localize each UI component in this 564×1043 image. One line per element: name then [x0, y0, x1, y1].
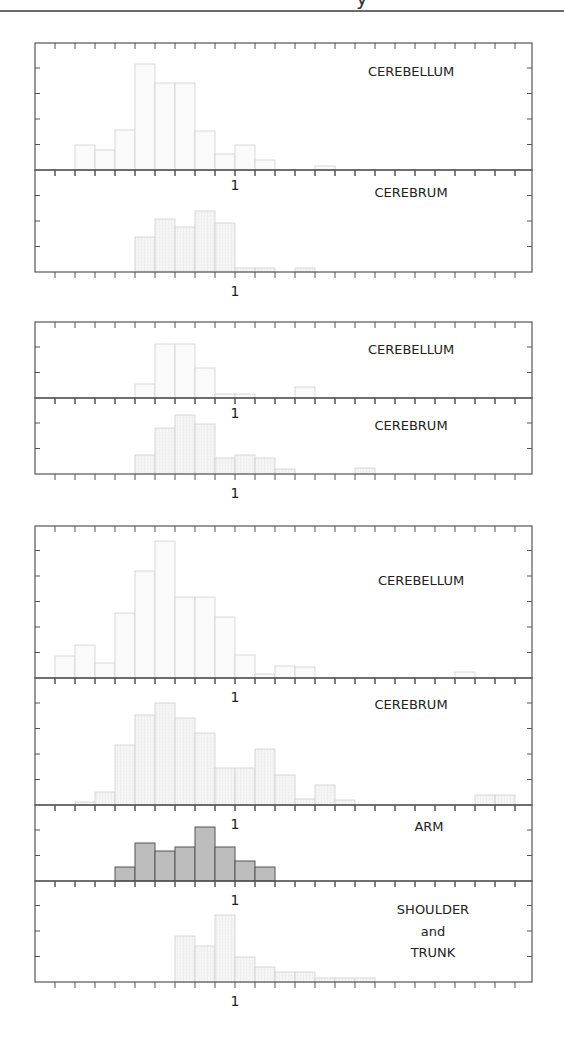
- panel-cerebellum: [55, 541, 475, 678]
- histogram-bar: [95, 663, 115, 678]
- histogram-bar: [275, 666, 295, 678]
- x-tick-label: 1: [231, 177, 240, 193]
- x-tick-label: 1: [231, 993, 240, 1009]
- histogram-bar: [215, 458, 235, 474]
- histogram-bar: [135, 715, 155, 805]
- histogram-bar: [195, 733, 215, 805]
- histogram-bar: [215, 154, 235, 170]
- histogram-bar: [235, 455, 255, 474]
- x-tick-label: 1: [231, 485, 240, 501]
- histogram-bar: [175, 227, 195, 272]
- panel-frame: [35, 881, 532, 982]
- histogram-bar: [175, 847, 195, 881]
- histogram-bar: [155, 851, 175, 881]
- histogram-bar: [55, 656, 75, 678]
- histogram-bar: [255, 867, 275, 881]
- histogram-bar: [155, 344, 175, 398]
- histogram-bar: [315, 785, 335, 805]
- histogram-bar: [255, 160, 275, 170]
- histogram-bar: [475, 795, 495, 805]
- histogram-bar: [255, 458, 275, 474]
- histogram-bar: [255, 749, 275, 805]
- histogram-bar: [115, 613, 135, 678]
- histogram-bar: [195, 946, 215, 982]
- histogram-bar: [295, 972, 315, 982]
- histogram-bar: [175, 344, 195, 398]
- histogram-bar: [235, 268, 255, 272]
- x-tick-label: 1: [231, 283, 240, 299]
- panel-title: CEREBELLUM: [378, 573, 464, 588]
- panel-frame: [35, 805, 532, 881]
- histogram-bar: [135, 64, 155, 170]
- histogram-bar: [95, 150, 115, 170]
- panel-cerebrum: [75, 703, 515, 805]
- histogram-bar: [295, 799, 315, 805]
- histogram-bar: [135, 843, 155, 881]
- histogram-bar: [195, 597, 215, 678]
- histogram-bar: [295, 268, 315, 272]
- histogram-bar: [195, 211, 215, 272]
- histogram-bar: [235, 145, 255, 170]
- histogram-stack: CEREBELLUM1CEREBRUM1CEREBELLUM1CEREBRUM1…: [0, 0, 564, 1043]
- x-tick-label: 1: [231, 892, 240, 908]
- histogram-bar: [215, 394, 235, 398]
- panel-cerebellum: [135, 344, 315, 398]
- panel-cerebrum: [135, 211, 315, 272]
- histogram-bar: [75, 645, 95, 678]
- panel-title: CEREBRUM: [374, 185, 447, 200]
- histogram-bar: [215, 768, 235, 805]
- histogram-bar: [135, 571, 155, 678]
- histogram-bar: [175, 718, 195, 805]
- histogram-bar: [195, 368, 215, 398]
- panel-title: CEREBELLUM: [368, 342, 454, 357]
- panel-title: SHOULDER: [397, 902, 469, 917]
- histogram-bar: [295, 667, 315, 678]
- histogram-bar: [175, 936, 195, 982]
- histogram-bar: [255, 967, 275, 982]
- histogram-bar: [175, 415, 195, 474]
- histogram-bar: [135, 384, 155, 398]
- panel-title: CEREBRUM: [374, 418, 447, 433]
- histogram-bar: [235, 861, 255, 881]
- histogram-bar: [115, 130, 135, 170]
- histogram-bar: [155, 703, 175, 805]
- histogram-bar: [175, 597, 195, 678]
- histogram-bar: [495, 795, 515, 805]
- histogram-bar: [215, 223, 235, 272]
- histogram-bar: [235, 768, 255, 805]
- histogram-bar: [155, 83, 175, 170]
- histogram-bar: [455, 672, 475, 678]
- histogram-bar: [155, 541, 175, 678]
- histogram-bar: [195, 131, 215, 170]
- histogram-bar: [235, 394, 255, 398]
- panel-title: ARM: [414, 819, 443, 834]
- panel-frame: [35, 398, 532, 474]
- panel-title: CEREBRUM: [374, 697, 447, 712]
- histogram-bar: [195, 424, 215, 474]
- panel-frame: [35, 526, 532, 678]
- x-tick-label: 1: [231, 816, 240, 832]
- histogram-bar: [215, 915, 235, 982]
- x-tick-label: 1: [231, 405, 240, 421]
- histogram-bar: [275, 775, 295, 805]
- histogram-bar: [95, 792, 115, 805]
- panel-title: and: [421, 924, 445, 939]
- panel-axes: [35, 43, 532, 988]
- histogram-bar: [275, 972, 295, 982]
- histogram-bar: [315, 166, 335, 170]
- panel-frame: [35, 170, 532, 272]
- panel-cerebrum: [135, 415, 375, 474]
- histogram-bar: [215, 617, 235, 678]
- histogram-bar: [115, 745, 135, 805]
- histogram-bar: [355, 468, 375, 474]
- histogram-bar: [135, 455, 155, 474]
- histogram-bar: [155, 428, 175, 474]
- histogram-bar: [235, 957, 255, 982]
- histogram-bar: [335, 800, 355, 805]
- histogram-bar: [275, 469, 295, 474]
- histogram-bar: [115, 867, 135, 881]
- panel-arm: [115, 827, 275, 881]
- panel-frame: [35, 322, 532, 398]
- panel-cerebellum: [75, 64, 335, 170]
- panel-shoulder-and-trunk: [175, 915, 375, 982]
